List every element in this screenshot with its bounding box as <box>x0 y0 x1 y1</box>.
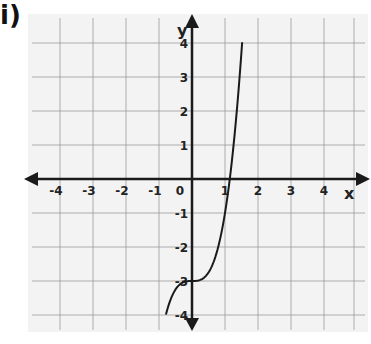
y-tick-label: -4 <box>175 309 188 323</box>
x-tick-label: 3 <box>287 184 295 198</box>
y-tick-label: -1 <box>175 207 188 221</box>
x-tick-label: -3 <box>82 184 95 198</box>
x-tick-label: 0 <box>176 184 184 198</box>
x-tick-label: -4 <box>49 184 62 198</box>
y-tick-label: -2 <box>175 241 188 255</box>
y-axis-label: y <box>177 21 188 40</box>
x-axis-label: x <box>344 184 355 203</box>
y-tick-label: 2 <box>180 105 188 119</box>
cubic-graph: -4-3-2-1012344321-1-2-3-4 x y <box>0 0 371 344</box>
x-tick-label: -1 <box>148 184 161 198</box>
x-tick-label: -2 <box>115 184 128 198</box>
y-tick-label: 1 <box>180 139 188 153</box>
graph-paper <box>28 14 368 332</box>
x-tick-label: 2 <box>254 184 262 198</box>
y-tick-label: 3 <box>180 71 188 85</box>
x-tick-label: 4 <box>320 184 328 198</box>
